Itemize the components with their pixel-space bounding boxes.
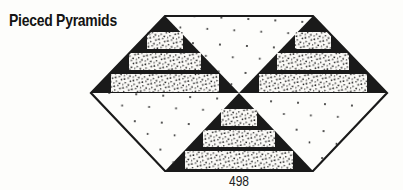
pyramid-step-middle bbox=[129, 53, 201, 70]
pyramid-step-middle bbox=[203, 130, 275, 147]
pyramid-step-bottom bbox=[259, 74, 367, 92]
pyramid-step-bottom bbox=[185, 151, 293, 169]
pyramid-step-bottom bbox=[111, 74, 219, 92]
scanned-page: Pieced Pyramids bbox=[0, 0, 403, 190]
figure-number: 498 bbox=[208, 172, 270, 189]
pyramid-step-middle bbox=[277, 53, 349, 70]
pyramid-step-top bbox=[147, 32, 183, 49]
hexagon-block bbox=[91, 16, 387, 171]
pyramid-step-top bbox=[221, 109, 257, 126]
quilt-block-figure bbox=[0, 0, 403, 190]
pyramid-step-top bbox=[295, 32, 331, 49]
